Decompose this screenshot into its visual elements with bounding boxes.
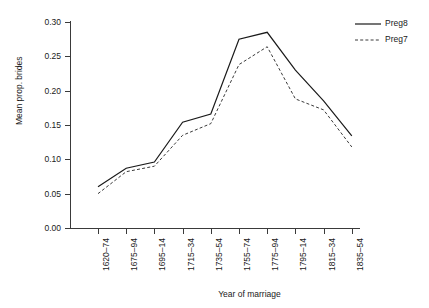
- chart-legend: Preg8Preg7: [355, 18, 408, 50]
- x-axis-tick-label: 1675–94: [130, 238, 139, 271]
- y-axis-title: Mean prop. brides: [14, 56, 24, 125]
- x-axis-tick-label: 1735–54: [215, 238, 224, 271]
- y-axis-tick-label: 0.05: [44, 190, 61, 199]
- y-axis-tick: [65, 91, 70, 92]
- x-axis-tick-label: 1815–34: [328, 238, 337, 271]
- y-axis-tick-label: 0.10: [44, 155, 61, 164]
- plot-area: [71, 22, 352, 228]
- y-axis-tick: [65, 125, 70, 126]
- y-axis-tick: [65, 22, 70, 23]
- x-axis-tick: [295, 229, 296, 234]
- y-axis-tick: [65, 228, 70, 229]
- x-axis-tick-label: 1775–94: [271, 238, 280, 271]
- y-axis-tick-label: 0.30: [44, 18, 61, 27]
- x-axis-tick-label: 1835–54: [356, 238, 365, 271]
- x-axis-tick-label: 1715–34: [187, 238, 196, 271]
- y-axis-tick: [65, 194, 70, 195]
- series-lines: [71, 22, 352, 228]
- x-axis-title: Year of marriage: [0, 289, 429, 299]
- x-axis-tick: [154, 229, 155, 234]
- x-axis-tick: [126, 229, 127, 234]
- series-line: [98, 32, 352, 187]
- x-axis-line: [70, 228, 360, 229]
- legend-entry: Preg8: [355, 18, 408, 34]
- y-axis-tick: [65, 56, 70, 57]
- y-axis-tick-label: 0.15: [44, 121, 61, 130]
- legend-entry: Preg7: [355, 34, 408, 50]
- dashed-line-icon: [355, 36, 381, 44]
- x-axis-tick-label: 1695–14: [158, 238, 167, 271]
- line-chart: 0.000.050.100.150.200.250.30 1620–741675…: [0, 0, 429, 308]
- legend-label: Preg8: [385, 18, 408, 28]
- x-axis-tick-label: 1795–14: [299, 238, 308, 271]
- x-axis-tick: [267, 229, 268, 234]
- x-axis-tick: [183, 229, 184, 234]
- y-axis-tick-label: 0.25: [44, 52, 61, 61]
- series-line: [98, 47, 352, 194]
- legend-label: Preg7: [385, 34, 408, 44]
- x-axis-tick: [98, 229, 99, 234]
- y-axis-tick: [65, 159, 70, 160]
- x-axis-tick: [352, 229, 353, 234]
- x-axis-title-text: Year of marriage: [218, 289, 281, 299]
- x-axis-tick: [239, 229, 240, 234]
- x-axis-tick-label: 1620–74: [102, 238, 111, 271]
- y-axis-tick-label: 0.00: [44, 224, 61, 233]
- solid-line-icon: [355, 20, 381, 28]
- y-axis-tick-label: 0.20: [44, 87, 61, 96]
- x-axis-tick: [211, 229, 212, 234]
- x-axis-tick: [324, 229, 325, 234]
- x-axis-tick-label: 1755–74: [243, 238, 252, 271]
